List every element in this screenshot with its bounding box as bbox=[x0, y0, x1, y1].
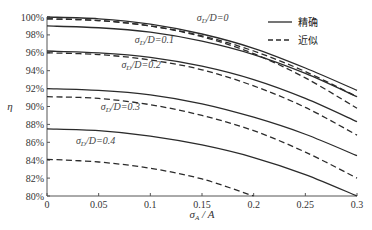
y-tick-label: 88% bbox=[26, 119, 44, 130]
y-tick-label: 98% bbox=[26, 29, 44, 40]
x-tick-label: 0.2 bbox=[247, 199, 260, 210]
curve-annotation: σD/D=0.2 bbox=[121, 59, 160, 72]
y-tick-label: 82% bbox=[26, 173, 44, 184]
y-tick-label: 80% bbox=[26, 191, 44, 202]
x-axis-label: σA / A bbox=[190, 208, 215, 222]
x-tick-label: 0.3 bbox=[351, 199, 364, 210]
x-tick-label: 0 bbox=[45, 199, 50, 210]
y-tick-label: 94% bbox=[26, 65, 44, 76]
legend-label-exact: 精确 bbox=[298, 16, 318, 28]
legend: 精确 近似 bbox=[268, 16, 318, 46]
y-tick-label: 90% bbox=[26, 101, 44, 112]
y-tick-label: 86% bbox=[26, 137, 44, 148]
series-line-0-2-exact bbox=[47, 51, 357, 122]
line-chart: 00.050.10.150.20.250.380%82%84%86%88%90%… bbox=[0, 0, 372, 230]
x-tick-label: 0.05 bbox=[90, 199, 108, 210]
series-line-0-4-approx bbox=[47, 159, 254, 196]
curve-annotation: σD/D=0 bbox=[197, 12, 229, 25]
curve-annotation: σD/D=0.1 bbox=[135, 34, 174, 47]
curve-annotation: σD/D=0.3 bbox=[101, 101, 140, 114]
x-tick-label: 0.1 bbox=[144, 199, 157, 210]
series-line-0-2-approx bbox=[47, 53, 357, 135]
legend-label-approx: 近似 bbox=[298, 34, 318, 46]
x-tick-label: 0.25 bbox=[297, 199, 315, 210]
y-tick-label: 84% bbox=[26, 155, 44, 166]
curve-annotation: σD/D=0.4 bbox=[76, 135, 115, 148]
y-tick-label: 92% bbox=[26, 83, 44, 94]
y-tick-label: 96% bbox=[26, 47, 44, 58]
y-axis-label: η bbox=[7, 100, 12, 112]
y-tick-label: 100% bbox=[21, 12, 44, 23]
series-line-0-approx bbox=[47, 19, 357, 97]
series-line-0-1-approx bbox=[47, 19, 357, 109]
